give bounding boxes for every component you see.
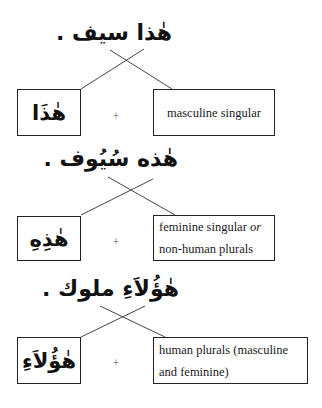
description-line: human plurals (masculine	[159, 339, 302, 361]
description-box-3: human plurals (masculine and feminine)	[153, 337, 308, 384]
plus-sign-2: +	[110, 236, 122, 248]
demonstrative-box-2: هٰذِهِ	[17, 216, 81, 261]
plus-sign-3: +	[110, 357, 122, 369]
connector-line-1a	[81, 49, 144, 89]
sentence-3: هٰؤُلاَءِ ملوك .	[55, 276, 179, 302]
connector-line-3b	[100, 306, 165, 337]
description-line: and feminine)	[159, 361, 302, 383]
description-line: non-human plurals	[159, 238, 269, 260]
description-emphasis: or	[250, 220, 261, 234]
plus-sign-1: +	[110, 110, 122, 122]
demonstrative-word-3: هٰؤُلاَءِ	[22, 349, 76, 373]
demonstrative-word-1: هٰذَا	[32, 101, 66, 125]
demonstrative-word-2: هٰذِهِ	[29, 227, 68, 251]
description-line: feminine singular or	[159, 216, 269, 238]
connector-line-3a	[81, 306, 145, 337]
sentence-2: هٰذه سُيُوف .	[58, 146, 178, 172]
sentence-1: هٰذا سيف .	[58, 20, 172, 46]
connector-line-1b	[110, 50, 172, 89]
description-box-2: feminine singular or non-human plurals	[153, 215, 275, 261]
description-box-1: masculine singular	[153, 89, 275, 136]
demonstrative-box-1: هٰذَا	[17, 89, 81, 136]
connector-line-2a	[81, 179, 153, 215]
connector-line-2b	[108, 177, 175, 215]
demonstrative-box-3: هٰؤُلاَءِ	[17, 337, 81, 384]
description-line: masculine singular	[167, 102, 261, 124]
